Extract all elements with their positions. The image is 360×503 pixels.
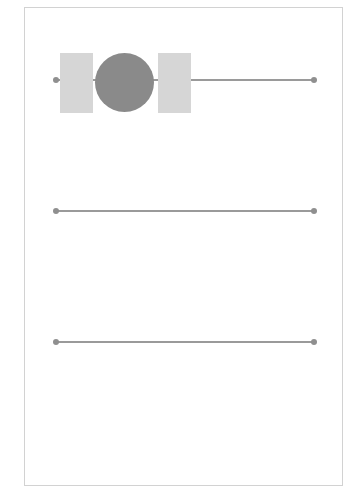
track-3-end-point[interactable] xyxy=(311,339,317,345)
track-1-end-point[interactable] xyxy=(311,77,317,83)
track-3-start-point[interactable] xyxy=(53,339,59,345)
left-block[interactable] xyxy=(60,53,93,113)
track-2-end-point[interactable] xyxy=(311,208,317,214)
track-1-start-point[interactable] xyxy=(53,77,59,83)
track-line-2[interactable] xyxy=(56,210,314,212)
slider-knob[interactable] xyxy=(95,53,154,112)
track-2-start-point[interactable] xyxy=(53,208,59,214)
track-line-3[interactable] xyxy=(56,341,314,343)
right-block[interactable] xyxy=(158,53,191,113)
